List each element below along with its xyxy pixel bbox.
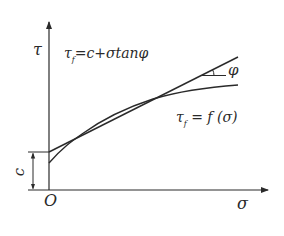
intercept-label: c — [10, 167, 28, 176]
x-axis-label: σ — [237, 194, 249, 213]
angle-label: φ — [228, 61, 239, 79]
origin-label: O — [44, 191, 57, 210]
angle-arc — [213, 70, 215, 76]
linear-envelope-equation: τf=c+σtanφ — [64, 45, 149, 64]
curved-eq-rhs: = f (σ) — [187, 109, 238, 125]
strength-envelope-diagram: c φ τ σ O τf=c+σtanφ τf = f (σ) — [0, 0, 284, 236]
y-axis-label: τ — [33, 40, 43, 59]
linear-eq-rhs: =c+σtanφ — [75, 45, 149, 61]
curved-envelope-equation: τf = f (σ) — [176, 109, 237, 128]
